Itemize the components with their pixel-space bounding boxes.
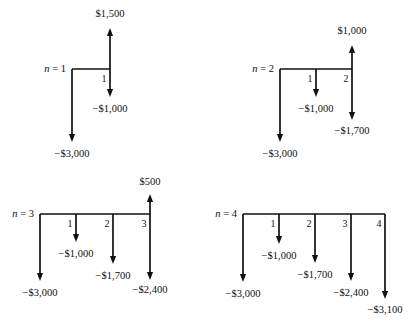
n-value-n2: = 2 [258, 63, 274, 74]
flow-arrow-p2-down-n3: −$1,700 [96, 214, 131, 281]
cash-flow-panel-n3: n = 3123−$3,000−$1,000−$1,700$500−$2,400 [12, 176, 167, 298]
cash-flow-amount-label: −$1,000 [262, 250, 297, 261]
flow-arrow-p1-down-n2: −$1,000 [299, 69, 334, 114]
flow-arrow-n0-down-n1: −$3,000 [55, 69, 90, 159]
arrowhead-down-icon [69, 134, 75, 142]
flow-arrow-p3-down-n4: −$2,400 [334, 214, 369, 298]
arrowhead-down-icon [349, 112, 355, 120]
cash-flow-amount-label: −$1,700 [298, 269, 333, 280]
period-tick-label-n3-1: 1 [68, 218, 73, 229]
period-tick-label-n4-4: 4 [377, 218, 382, 229]
panel-label-n4: n = 4 [215, 208, 237, 219]
period-tick-label-n2-1: 1 [308, 73, 313, 84]
flow-arrow-n0-down-n3: −$3,000 [23, 214, 58, 298]
arrowhead-up-icon [107, 28, 113, 36]
flow-arrow-p1-down-n1: −$1,000 [93, 69, 128, 114]
period-tick-label-n4-1: 1 [271, 218, 276, 229]
n-value-n1: = 1 [50, 63, 66, 74]
cash-flow-amount-label: $1,000 [338, 25, 367, 36]
flow-arrow-p3-up-n3: $500 [140, 176, 161, 214]
n-value-n3: = 3 [18, 208, 34, 219]
flow-arrow-n0-down-n2: −$3,000 [263, 69, 298, 159]
arrowhead-down-icon [382, 291, 388, 299]
cash-flow-figure: n = 11−$3,000$1,500−$1,000n = 212−$3,000… [0, 0, 414, 327]
period-tick-label-n1-1: 1 [102, 73, 107, 84]
cash-flow-amount-label: $1,500 [96, 8, 125, 19]
cash-flow-panel-n4: n = 41234−$3,000−$1,000−$1,700−$2,400−$3… [215, 208, 402, 315]
panel-label-n2: n = 2 [252, 63, 274, 74]
cash-flow-panel-n1: n = 11−$3,000$1,500−$1,000 [44, 8, 127, 159]
panel-label-n1: n = 1 [44, 63, 66, 74]
flow-arrow-p2-down-n4: −$1,700 [298, 214, 333, 280]
cash-flow-amount-label: −$1,000 [59, 248, 94, 259]
cash-flow-diagram-canvas: n = 11−$3,000$1,500−$1,000n = 212−$3,000… [0, 0, 414, 327]
cash-flow-amount-label: $500 [140, 176, 161, 187]
flow-arrow-p1-down-n4: −$1,000 [262, 214, 297, 261]
cash-flow-amount-label: −$1,000 [299, 103, 334, 114]
period-tick-label-n4-2: 2 [307, 218, 312, 229]
arrowhead-down-icon [73, 234, 79, 242]
flow-arrow-n0-down-n4: −$3,000 [226, 214, 261, 299]
arrowhead-down-icon [276, 236, 282, 244]
arrowhead-down-icon [277, 134, 283, 142]
arrowhead-down-icon [107, 89, 113, 97]
cash-flow-amount-label: −$1,700 [335, 125, 370, 136]
arrowhead-down-icon [147, 272, 153, 280]
arrowhead-down-icon [240, 274, 246, 282]
n-value-n4: = 4 [221, 208, 238, 219]
cash-flow-amount-label: −$2,400 [334, 287, 369, 298]
period-tick-label-n4-3: 3 [343, 218, 348, 229]
flow-arrow-p2-up-n2: $1,000 [338, 25, 367, 69]
cash-flow-amount-label: −$3,000 [55, 148, 90, 159]
arrowhead-down-icon [37, 273, 43, 281]
cash-flow-panel-n2: n = 212−$3,000−$1,000$1,000−$1,700 [252, 25, 369, 159]
cash-flow-amount-label: −$3,000 [263, 148, 298, 159]
cash-flow-amount-label: −$1,700 [96, 270, 131, 281]
cash-flow-amount-label: −$2,400 [133, 284, 168, 295]
arrowhead-down-icon [110, 256, 116, 264]
arrowhead-up-icon [147, 194, 153, 202]
arrowhead-down-icon [312, 255, 318, 263]
arrowhead-down-icon [313, 89, 319, 97]
flow-arrow-p1-down-n3: −$1,000 [59, 214, 94, 259]
flow-arrow-p2-down-n2: −$1,700 [335, 69, 370, 136]
panel-label-n3: n = 3 [12, 208, 34, 219]
flow-arrow-p4-down-n4: −$3,100 [368, 214, 403, 315]
arrowhead-down-icon [348, 273, 354, 281]
arrowhead-up-icon [349, 45, 355, 53]
period-tick-label-n3-3: 3 [142, 218, 147, 229]
cash-flow-amount-label: −$3,100 [368, 304, 403, 315]
cash-flow-amount-label: −$1,000 [93, 103, 128, 114]
period-tick-label-n2-2: 2 [344, 73, 349, 84]
cash-flow-amount-label: −$3,000 [226, 288, 261, 299]
flow-arrow-p3-down-n3: −$2,400 [133, 214, 168, 295]
flow-arrow-p1-up-n1: $1,500 [96, 8, 125, 69]
period-tick-label-n3-2: 2 [105, 218, 110, 229]
cash-flow-amount-label: −$3,000 [23, 287, 58, 298]
